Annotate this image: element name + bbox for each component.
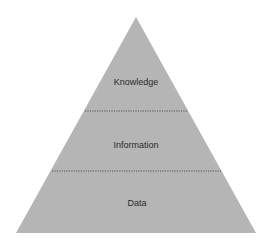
tier-label-data: Data: [127, 198, 146, 208]
tier-label-information: Information: [113, 140, 158, 150]
dikw-pyramid-diagram: Knowledge Information Data: [0, 0, 272, 248]
pyramid-graphic: Knowledge Information Data: [0, 0, 272, 248]
tier-label-knowledge: Knowledge: [114, 77, 159, 87]
